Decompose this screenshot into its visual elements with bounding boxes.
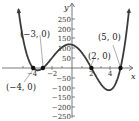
y-tick-200: 200 xyxy=(58,26,71,34)
curve-arrow-left-icon xyxy=(17,8,21,13)
x-axis-label: x xyxy=(131,72,136,81)
y-tick-neg200: −200 xyxy=(52,104,71,112)
point-neg3 xyxy=(41,66,45,70)
label-point-2: (2, 0) xyxy=(88,51,111,61)
y-tick-neg50: −50 xyxy=(56,75,71,83)
point-neg4 xyxy=(31,66,35,70)
y-axis-label: y xyxy=(63,3,69,12)
curve-arrow-right-icon xyxy=(127,8,131,13)
y-tick-50: 50 xyxy=(62,55,71,63)
point-2 xyxy=(89,66,93,70)
y-tick-250: 250 xyxy=(58,16,71,24)
x-tick-4: 4 xyxy=(108,70,113,78)
y-ticks xyxy=(72,19,75,116)
label-point-neg4: (−4, 0) xyxy=(6,82,36,92)
y-tick-neg250: −250 xyxy=(52,113,71,121)
label-point-neg3: (−3, 0) xyxy=(20,29,50,39)
y-tick-neg100: −100 xyxy=(52,85,71,93)
y-tick-neg150: −150 xyxy=(52,94,71,102)
y-tick-150: 150 xyxy=(58,35,71,43)
label-point-5: (5, 0) xyxy=(98,32,121,42)
point-5 xyxy=(118,66,122,70)
x-tick-neg2: −2 xyxy=(47,70,57,78)
chart: x y 250 200 150 100 50 −50 −100 −150 −20… xyxy=(0,0,139,121)
